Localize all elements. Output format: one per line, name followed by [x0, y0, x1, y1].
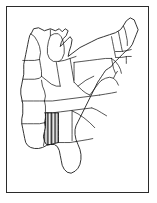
map-figure [0, 0, 157, 203]
border-ga-fl [76, 139, 93, 142]
border-nc-va [100, 92, 117, 95]
mississippi-hatch-fill [43, 113, 58, 145]
map-border [6, 6, 149, 193]
eastern-us-map [7, 7, 148, 192]
border-md-va [102, 77, 119, 85]
highlighted-state-mississippi [43, 113, 58, 145]
border-sc-nc [92, 108, 107, 116]
